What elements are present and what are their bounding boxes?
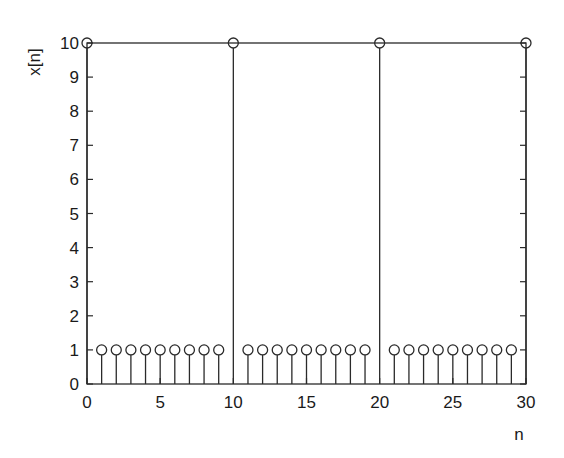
y-tick-label: 3 — [70, 273, 79, 292]
x-tick-label: 15 — [297, 393, 316, 412]
plot-axes — [87, 43, 526, 384]
stem-marker — [448, 345, 458, 355]
stem-marker — [433, 345, 443, 355]
stem-plot: 051015202530 012345678910 n x[n] — [0, 0, 564, 458]
x-tick-label: 25 — [443, 393, 462, 412]
stem-marker — [272, 345, 282, 355]
stem-marker — [345, 345, 355, 355]
stem-marker — [170, 345, 180, 355]
stem-marker — [214, 345, 224, 355]
y-tick-label: 6 — [70, 170, 79, 189]
stem-marker — [155, 345, 165, 355]
stem-marker — [316, 345, 326, 355]
stem-marker — [243, 345, 253, 355]
stem-marker — [184, 345, 194, 355]
y-tick-label: 2 — [70, 307, 79, 326]
y-tick-label: 5 — [70, 205, 79, 224]
y-tick-label: 1 — [70, 341, 79, 360]
x-tick-label: 5 — [155, 393, 164, 412]
y-axis-ticks: 012345678910 — [60, 34, 526, 394]
stem-marker — [258, 345, 268, 355]
stem-marker — [404, 345, 414, 355]
stem-marker — [97, 345, 107, 355]
y-tick-label: 7 — [70, 136, 79, 155]
x-tick-label: 10 — [224, 393, 243, 412]
stem-marker — [126, 345, 136, 355]
y-tick-label: 0 — [70, 375, 79, 394]
stem-marker — [302, 345, 312, 355]
x-tick-label: 0 — [82, 393, 91, 412]
stem-series — [82, 38, 531, 384]
stem-marker — [331, 345, 341, 355]
stem-marker — [419, 345, 429, 355]
stem-marker — [506, 345, 516, 355]
stem-marker — [462, 345, 472, 355]
y-tick-label: 4 — [70, 239, 79, 258]
stem-marker — [199, 345, 209, 355]
stem-marker — [389, 345, 399, 355]
stem-marker — [141, 345, 151, 355]
y-tick-label: 10 — [60, 34, 79, 53]
stem-marker — [287, 345, 297, 355]
stem-marker — [492, 345, 502, 355]
stem-marker — [477, 345, 487, 355]
y-axis-label: x[n] — [25, 48, 44, 75]
x-tick-label: 20 — [370, 393, 389, 412]
y-tick-label: 8 — [70, 102, 79, 121]
x-axis-label: n — [514, 425, 523, 444]
x-tick-label: 30 — [517, 393, 536, 412]
plot-frame — [87, 43, 526, 384]
stem-marker — [111, 345, 121, 355]
y-tick-label: 9 — [70, 68, 79, 87]
stem-marker — [360, 345, 370, 355]
